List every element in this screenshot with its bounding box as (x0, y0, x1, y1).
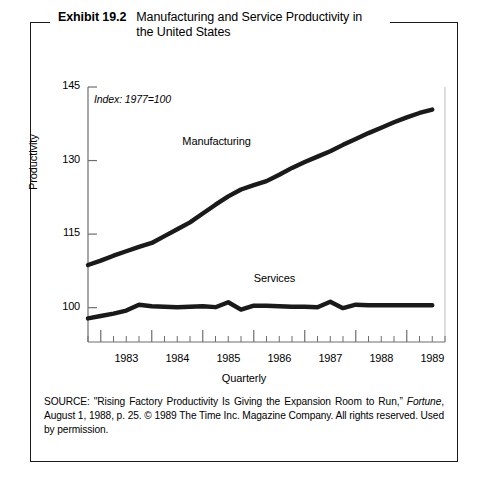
y-axis-title: Productivity (27, 134, 39, 190)
x-tick-label: 1988 (359, 352, 403, 364)
y-tick-label: 145 (46, 79, 80, 91)
source-publication: Fortune (407, 396, 441, 407)
x-tick-label: 1989 (410, 352, 454, 364)
x-tick-label: 1985 (206, 352, 250, 364)
series-line-services (88, 302, 432, 319)
y-tick-label: 100 (46, 300, 80, 312)
x-tick-label: 1987 (308, 352, 352, 364)
index-annotation: Index: 1977=100 (94, 93, 171, 105)
source-prefix: SOURCE: "Rising Factory Productivity Is … (44, 396, 407, 407)
series-label-services: Services (254, 272, 295, 284)
y-tick-label: 115 (46, 226, 80, 238)
x-tick-label: 1984 (155, 352, 199, 364)
y-tick-label: 130 (46, 153, 80, 165)
series-label-manufacturing: Manufacturing (182, 135, 250, 147)
source-note: SOURCE: "Rising Factory Productivity Is … (44, 395, 444, 438)
x-tick-label: 1983 (104, 352, 148, 364)
series-line-manufacturing (88, 110, 432, 265)
x-axis-title: Quarterly (30, 372, 458, 384)
exhibit-frame: Exhibit 19.2 Manufacturing and Service P… (30, 22, 458, 462)
x-tick-label: 1986 (257, 352, 301, 364)
